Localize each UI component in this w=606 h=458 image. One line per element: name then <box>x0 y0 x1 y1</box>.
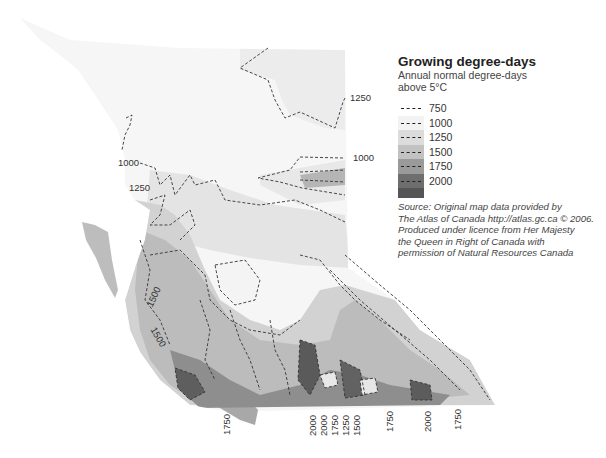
dashed-line-icon <box>401 108 421 109</box>
legend-label: 1250 <box>429 131 452 143</box>
contour-label: 1250 <box>340 415 351 436</box>
contour-label: 2000 <box>318 415 329 436</box>
source-line: The Atlas of Canada http://atlas.gc.ca ©… <box>398 213 606 225</box>
map-legend: Growing degree-days Annual normal degree… <box>398 54 606 198</box>
source-line: Source: Original map data provided by <box>398 201 606 213</box>
contour-label: 1000 <box>118 157 139 168</box>
contour-label: 1750 <box>221 414 232 435</box>
legend-item: 1500 <box>398 145 606 160</box>
contour-label: 2000 <box>307 415 318 436</box>
contour-label: 2000 <box>422 411 433 432</box>
dashed-line-icon <box>401 152 421 153</box>
legend-subtitle: above 5°C <box>398 81 606 93</box>
legend-label: 1500 <box>429 146 452 158</box>
contour-label: 1750 <box>384 411 395 432</box>
legend-item: 2000 <box>398 174 606 189</box>
contour-label: 1250 <box>350 92 371 103</box>
dashed-line-icon <box>401 137 421 138</box>
source-credit: Source: Original map data provided by Th… <box>398 201 606 259</box>
legend-label: 1000 <box>429 117 452 129</box>
legend-swatch <box>398 188 424 198</box>
legend-item: 750 <box>398 101 606 116</box>
legend-label: 1750 <box>429 160 452 172</box>
dashed-line-icon <box>401 166 421 167</box>
contour-label: 1750 <box>452 409 463 430</box>
legend-title: Growing degree-days <box>398 54 606 69</box>
legend-items: 750 1000 1250 1500 1750 2000 <box>398 101 606 198</box>
haida-gwaii <box>82 222 118 298</box>
legend-subtitle: Annual normal degree-days <box>398 69 606 81</box>
contour-label: 1500 <box>351 415 362 436</box>
source-line: Produced under licence from Her Majesty <box>398 224 606 236</box>
dashed-line-icon <box>401 123 421 124</box>
contour-label: 1000 <box>353 152 374 163</box>
contour-label: 1750 <box>329 415 340 436</box>
legend-item: 1250 <box>398 130 606 145</box>
legend-item: 1750 <box>398 159 606 174</box>
legend-label: 2000 <box>429 175 452 187</box>
source-line: the Queen in Right of Canada with <box>398 236 606 248</box>
legend-item: 1000 <box>398 116 606 131</box>
legend-label: 750 <box>429 102 447 114</box>
dashed-line-icon <box>401 181 421 182</box>
contour-label: 1250 <box>129 182 150 193</box>
source-line: permission of Natural Resources Canada <box>398 247 606 259</box>
